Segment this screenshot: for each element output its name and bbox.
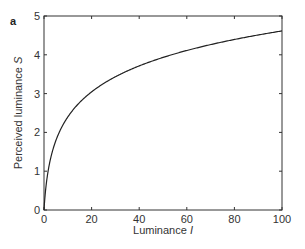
y-tick-label: 5 [34,10,40,22]
y-tick-label: 1 [34,165,40,177]
y-tick-label: 3 [34,88,40,100]
chart: a 020406080100012345 Luminance I Perceiv… [0,0,305,249]
plot-area: 020406080100012345 [34,10,291,225]
y-tick-label: 0 [34,204,40,216]
y-tick-label: 2 [34,126,40,138]
y-tick-label: 4 [34,49,40,61]
x-tick-label: 80 [228,213,240,225]
plot-frame [44,16,282,210]
y-axis-label: Perceived luminance S [12,56,24,169]
x-tick-label: 20 [85,213,97,225]
x-axis-label: Luminance I [133,224,193,236]
x-tick-label: 100 [273,213,291,225]
x-tick-label: 0 [41,213,47,225]
series-line [44,31,282,210]
panel-label: a [10,15,17,27]
